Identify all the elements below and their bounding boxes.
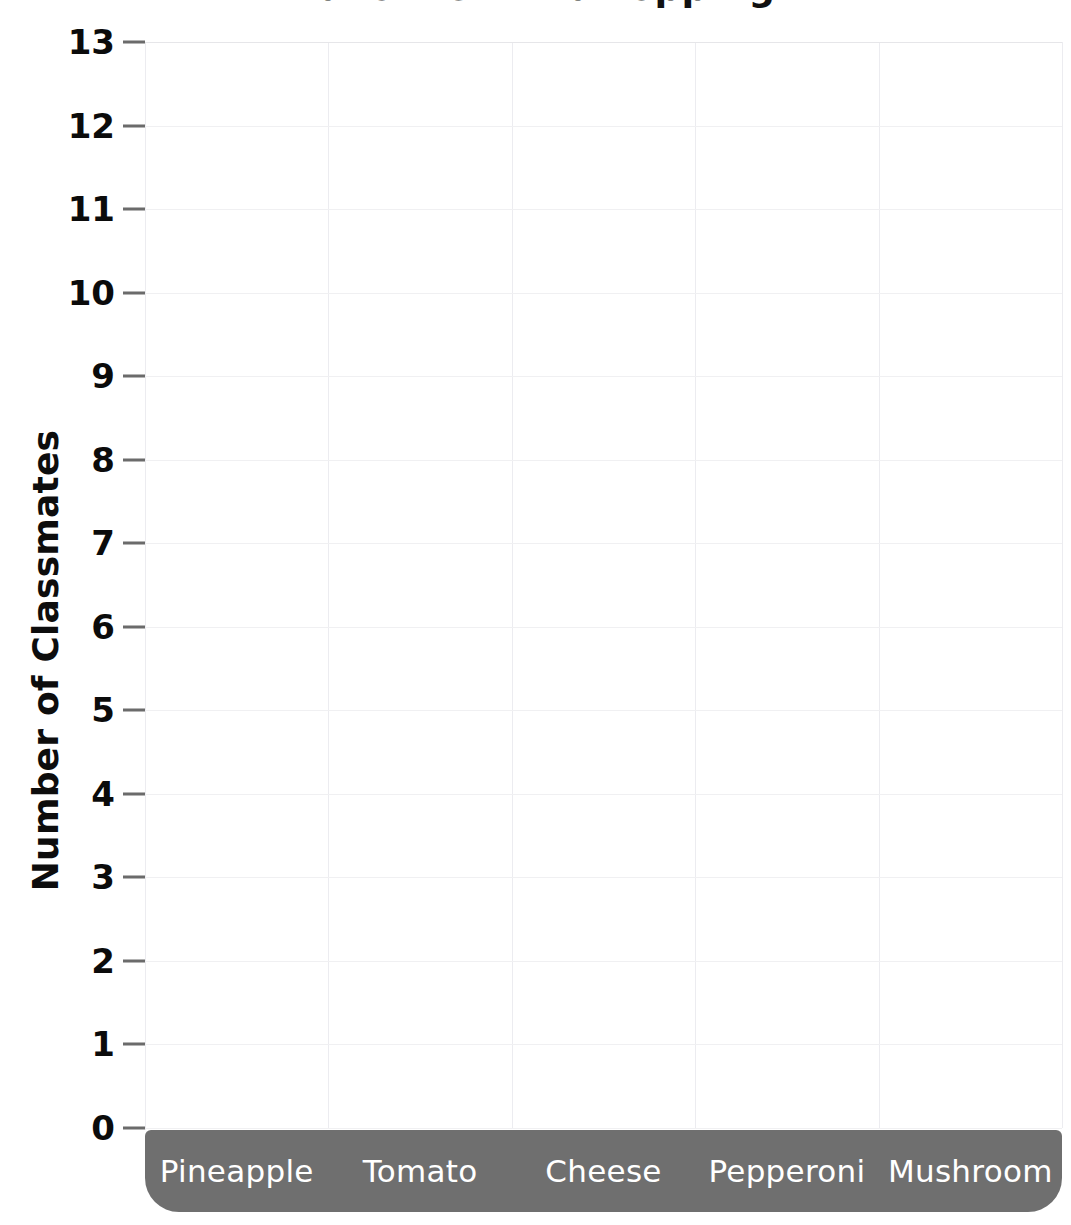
y-axis-tick-label: 11 — [55, 192, 115, 226]
y-axis-tick-label: 0 — [55, 1111, 115, 1145]
category-label-tomato: Tomato — [328, 1153, 511, 1189]
y-axis-tick-label: 13 — [55, 25, 115, 59]
y-axis-tick-label: 4 — [55, 777, 115, 811]
horizontal-gridline — [145, 1044, 1062, 1045]
y-axis-tick-mark — [123, 375, 145, 378]
y-axis-tick-label: 6 — [55, 610, 115, 644]
horizontal-gridline — [145, 460, 1062, 461]
category-label-pepperoni: Pepperoni — [695, 1153, 878, 1189]
y-axis-tick-mark — [123, 208, 145, 211]
y-axis-tick-mark — [123, 542, 145, 545]
horizontal-gridline — [145, 877, 1062, 878]
y-axis-tick-mark — [123, 291, 145, 294]
category-label-pineapple: Pineapple — [145, 1153, 328, 1189]
y-axis-tick-mark — [123, 124, 145, 127]
horizontal-gridline — [145, 543, 1062, 544]
category-axis-bar: PineappleTomatoCheesePepperoniMushroom — [145, 1130, 1062, 1212]
y-axis-tick-label: 2 — [55, 944, 115, 978]
y-axis-tick-label: 10 — [55, 276, 115, 310]
horizontal-gridline — [145, 376, 1062, 377]
vertical-gridline — [145, 42, 146, 1128]
y-axis-tick-mark — [123, 1043, 145, 1046]
vertical-gridline — [328, 42, 329, 1128]
category-label-cheese: Cheese — [512, 1153, 695, 1189]
vertical-gridline — [512, 42, 513, 1128]
y-axis-tick-mark — [123, 876, 145, 879]
y-axis-tick-label: 3 — [55, 860, 115, 894]
y-axis-tick-label: 8 — [55, 443, 115, 477]
y-axis-tick-label: 7 — [55, 526, 115, 560]
y-axis-tick-label: 1 — [55, 1027, 115, 1061]
y-axis-tick-mark — [123, 625, 145, 628]
y-axis-tick-mark — [123, 709, 145, 712]
horizontal-gridline — [145, 42, 1062, 43]
y-axis-tick-label: 9 — [55, 359, 115, 393]
y-axis-tick-mark — [123, 959, 145, 962]
horizontal-gridline — [145, 961, 1062, 962]
y-axis-tick-mark — [123, 458, 145, 461]
horizontal-gridline — [145, 794, 1062, 795]
horizontal-gridline — [145, 710, 1062, 711]
horizontal-gridline — [145, 1128, 1062, 1129]
plot-area — [145, 42, 1062, 1128]
y-axis-tick-label: 12 — [55, 109, 115, 143]
y-axis-tick-mark — [123, 792, 145, 795]
horizontal-gridline — [145, 293, 1062, 294]
vertical-gridline — [695, 42, 696, 1128]
horizontal-gridline — [145, 209, 1062, 210]
horizontal-gridline — [145, 126, 1062, 127]
y-axis-tick-labels: 131211109876543210 — [55, 0, 115, 1225]
category-label-mushroom: Mushroom — [879, 1153, 1062, 1189]
y-axis-tick-mark — [123, 1127, 145, 1130]
horizontal-gridline — [145, 627, 1062, 628]
y-axis-tick-mark — [123, 41, 145, 44]
y-axis-tick-label: 5 — [55, 693, 115, 727]
chart-title: Favorite Pizza Topping — [0, 0, 1071, 9]
vertical-gridline — [1062, 42, 1063, 1128]
vertical-gridline — [879, 42, 880, 1128]
